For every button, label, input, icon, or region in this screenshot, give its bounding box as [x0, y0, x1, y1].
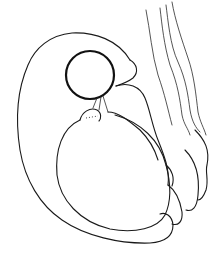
nodule-dots	[86, 116, 98, 118]
epididymis-head	[116, 85, 168, 186]
tail-lobe-3	[195, 130, 208, 200]
anatomical-line-drawing	[0, 0, 220, 262]
illustration-canvas	[0, 0, 220, 262]
cord-line-2	[160, 8, 190, 135]
testis-body	[57, 115, 170, 231]
outer-sac-outline	[18, 33, 173, 243]
cord-line-4	[172, 2, 206, 135]
tail-lobe-2	[185, 150, 198, 210]
stalk-mid	[99, 97, 101, 110]
stalk-right	[103, 96, 108, 112]
cord-line-1	[146, 10, 172, 125]
small-nodule	[80, 109, 101, 121]
upper-lobe-outline	[116, 60, 137, 86]
circle-appendix	[66, 51, 114, 99]
